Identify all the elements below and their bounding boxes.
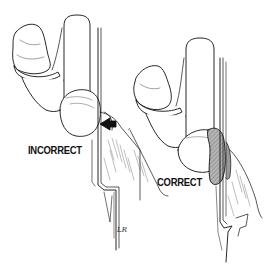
artist-signature: LR — [117, 226, 127, 234]
right-hand — [134, 66, 172, 110]
right-torso — [230, 150, 262, 218]
divider-line — [128, 128, 130, 130]
right-post — [186, 38, 214, 140]
illustration — [0, 0, 273, 264]
left-post — [64, 15, 90, 100]
correct-panel — [130, 38, 262, 262]
incorrect-label: INCORRECT — [28, 145, 82, 157]
padding-pad — [207, 128, 225, 184]
pressure-arrow-icon — [100, 118, 116, 130]
left-hand — [13, 24, 51, 74]
correct-label: CORRECT — [157, 177, 202, 189]
incorrect-panel — [13, 15, 140, 250]
